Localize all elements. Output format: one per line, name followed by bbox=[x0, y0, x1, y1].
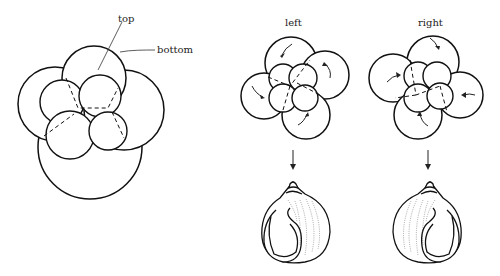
label-bottom: bottom bbox=[157, 44, 193, 55]
chamber-inner bbox=[292, 85, 318, 111]
chamber-inner-3 bbox=[46, 111, 94, 159]
foram-test-large bbox=[18, 46, 164, 199]
label-right: right bbox=[418, 17, 443, 28]
label-left: left bbox=[285, 17, 302, 28]
label-top: top bbox=[118, 13, 134, 24]
shell-apex bbox=[289, 182, 298, 188]
shell-left bbox=[262, 182, 330, 263]
shell-apex bbox=[425, 182, 434, 188]
coiling-diagram: top bottom left bbox=[0, 0, 500, 276]
leader-line-bottom bbox=[120, 50, 155, 52]
shell-right bbox=[393, 182, 461, 263]
foram-left-coiling bbox=[241, 37, 349, 139]
chamber-inner-2 bbox=[79, 75, 121, 117]
foram-right-coiling bbox=[369, 36, 483, 139]
arrow-down-icon bbox=[425, 164, 431, 170]
arrow-down-icon bbox=[290, 164, 296, 170]
